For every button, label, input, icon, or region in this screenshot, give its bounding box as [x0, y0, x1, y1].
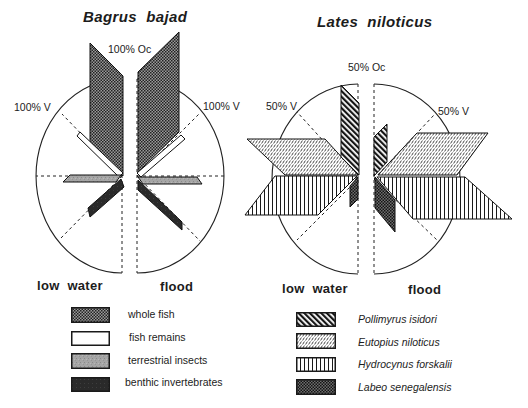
- legend-swatch-fish-remains: [71, 331, 110, 346]
- bagrus-title: Bagrus bajad: [83, 9, 187, 24]
- figure: Bagrus bajad 100% Oc 100% V 100% V low w…: [0, 0, 528, 408]
- bar-terrestrial-insects: [63, 175, 121, 182]
- legend-label-labeo-senegalensis: Labeo senegalensis: [358, 382, 451, 393]
- bagrus-v-label-right: 100% V: [203, 101, 240, 112]
- bar-whole-fish: [90, 43, 123, 176]
- bar-hydrocynus-forskalii: [245, 176, 357, 215]
- legend-label-fish-remains: fish remains: [129, 332, 186, 343]
- bagrus-oc-axis-label: 100% Oc: [108, 44, 151, 55]
- lates-diagram: [245, 84, 512, 274]
- legend-swatch-benthic-invertebrates: [71, 377, 110, 392]
- legend-label-terrestrial-insects: terrestrial insects: [128, 355, 207, 366]
- diagram-canvas: [0, 0, 528, 408]
- bar-eutopius-niloticus: [378, 133, 488, 175]
- legend-swatch-hydrocynus-forskalii: [296, 357, 336, 372]
- lates-season-low-water: low water: [282, 282, 348, 295]
- plot-layer: [36, 32, 512, 274]
- legend-label-eutopius-niloticus: Eutopius niloticus: [358, 337, 440, 348]
- legend-label-pollimyrus-isidori: Pollimyrus isidori: [358, 314, 437, 325]
- legend-label-benthic-invertebrates: benthic invertebrates: [125, 377, 222, 388]
- lates-season-flood: flood: [408, 283, 441, 296]
- legend-label-whole-fish: whole fish: [128, 309, 175, 320]
- lates-left-half: [245, 84, 359, 274]
- lates-v-label-left: 50% V: [266, 101, 297, 112]
- legend-swatch-eutopius-niloticus: [296, 333, 336, 349]
- bar-benthic-invertebrates: [88, 179, 124, 217]
- lates-v-label-right: 50% V: [438, 106, 469, 117]
- legend-swatch-terrestrial-insects: [71, 353, 110, 369]
- bagrus-season-low-water: low water: [37, 279, 103, 292]
- bagrus-diagram: [36, 32, 224, 273]
- legend-swatch-whole-fish: [71, 307, 110, 323]
- lates-title: Lates niloticus: [317, 14, 433, 29]
- bar-benthic-invertebrates: [138, 180, 182, 230]
- bagrus-right-half: [137, 32, 224, 273]
- lates-oc-axis-label: 50% Oc: [348, 62, 385, 73]
- bagrus-v-label-left: 100% V: [14, 102, 51, 113]
- legend-swatch-pollimyrus-isidori: [296, 312, 336, 327]
- legend-swatch-labeo-senegalensis: [296, 379, 336, 395]
- legend-label-hydrocynus-forskalii: Hydrocynus forskalii: [358, 359, 452, 370]
- bar-terrestrial-insects: [138, 177, 202, 184]
- bagrus-season-flood: flood: [160, 280, 193, 293]
- bagrus-left-half: [36, 43, 124, 273]
- bar-hydrocynus-forskalii: [377, 177, 512, 219]
